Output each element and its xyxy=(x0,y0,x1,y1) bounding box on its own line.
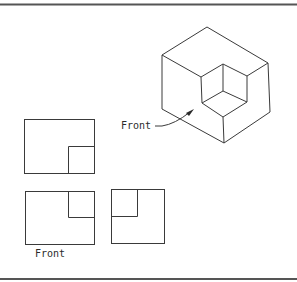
side-view-notch xyxy=(112,190,138,217)
notch-floor-back-edges xyxy=(202,91,247,103)
isometric-pictorial: Front xyxy=(121,27,270,143)
side-view xyxy=(112,190,165,244)
top-view-notch xyxy=(69,147,95,174)
top-face-right-edge xyxy=(247,63,268,76)
top-face-front-edges xyxy=(162,55,201,77)
drawing-canvas: Front Front xyxy=(0,0,297,282)
front-view-label: Front xyxy=(35,248,65,259)
corner-notch xyxy=(201,64,247,117)
front-vertical-edge xyxy=(223,117,224,143)
notch-left-vertical xyxy=(201,77,202,103)
notch-floor-front-edges xyxy=(202,102,247,117)
front-view-notch xyxy=(69,192,95,218)
top-view xyxy=(25,120,95,174)
outer-silhouette xyxy=(162,27,270,143)
leader-line xyxy=(155,112,190,126)
leader-arrowhead-icon xyxy=(186,109,194,116)
pictorial-front-label: Front xyxy=(121,120,151,131)
front-view: Front xyxy=(26,192,95,260)
notch-top-edges xyxy=(201,64,247,77)
